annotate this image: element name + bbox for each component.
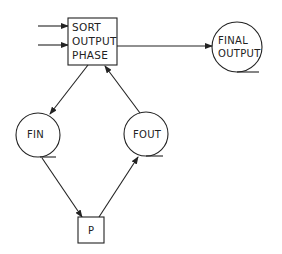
fout-node: FOUT bbox=[124, 112, 168, 156]
p-label: P bbox=[88, 225, 94, 236]
sort-label-line-3: PHASE bbox=[72, 49, 108, 61]
sort-output-phase-node: SORT OUTPUT PHASE bbox=[68, 18, 117, 65]
sort-label-line-2: OUTPUT bbox=[72, 35, 117, 47]
edge-sort-to-fin bbox=[50, 65, 88, 114]
fout-label: FOUT bbox=[133, 129, 162, 140]
final-output-circle bbox=[212, 22, 262, 72]
final-label-line-2: OUTPUT bbox=[218, 48, 261, 59]
fin-label: FIN bbox=[27, 129, 44, 140]
edge-p-to-fout bbox=[99, 157, 138, 217]
edge-fout-to-sort bbox=[105, 66, 140, 113]
diagram-canvas: SORT OUTPUT PHASE FINAL OUTPUT FIN FOUT … bbox=[0, 0, 282, 254]
fin-node: FIN bbox=[16, 113, 60, 157]
p-node: P bbox=[78, 217, 104, 243]
final-output-node: FINAL OUTPUT bbox=[212, 22, 262, 72]
edge-fin-to-p bbox=[42, 158, 82, 217]
sort-label-line-1: SORT bbox=[72, 21, 101, 33]
final-label-line-1: FINAL bbox=[218, 35, 248, 46]
